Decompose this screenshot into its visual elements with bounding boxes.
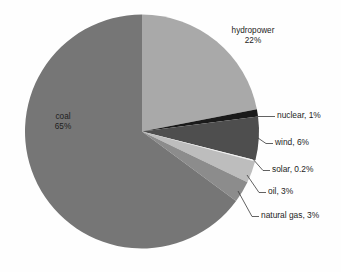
slice-label-hydropower: hydropower — [232, 26, 275, 35]
callout-label-solar: solar, 0.2% — [272, 164, 314, 174]
callout-label-nuclear: nuclear, 1% — [277, 110, 321, 120]
slice-percent-coal: 65% — [55, 122, 71, 131]
callout-label-oil: oil, 3% — [268, 186, 294, 196]
leader-line-oil — [247, 175, 266, 193]
pie-chart-canvas: hydropower22%nuclear, 1%wind, 6%solar, 0… — [0, 0, 341, 272]
slice-label-coal: coal — [55, 112, 70, 121]
pie-chart-figure: hydropower22%nuclear, 1%wind, 6%solar, 0… — [0, 0, 341, 272]
callout-label-natural-gas: natural gas, 3% — [261, 210, 320, 220]
leader-line-wind — [258, 138, 273, 144]
slice-percent-hydropower: 22% — [245, 36, 261, 45]
callout-label-wind: wind, 6% — [274, 137, 310, 147]
pie-slices-group — [25, 15, 259, 249]
leader-line-natural-gas — [238, 191, 259, 217]
